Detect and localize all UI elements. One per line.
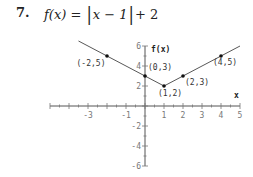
data-point <box>105 54 109 58</box>
y-tick-label: -4 <box>131 142 141 151</box>
y-tick-label: -6 <box>131 162 141 171</box>
x-tick-label: 5 <box>238 111 243 120</box>
point-labels: (-2,5)(0,3)(1,2)(2,3)(4,5) <box>77 58 238 98</box>
x-tick-label: 3 <box>200 111 205 120</box>
data-point <box>143 74 147 78</box>
data-point <box>162 84 166 88</box>
y-tick-label: -2 <box>131 122 141 131</box>
x-axis-label: x <box>234 91 239 100</box>
x-tick-label: 1 <box>162 111 167 120</box>
function-graph: -3-112345642-2-4-6 (-2,5)(0,3)(1,2)(2,3)… <box>0 0 253 177</box>
x-tick-label: 4 <box>219 111 224 120</box>
point-label: (4,5) <box>213 58 237 67</box>
y-tick-label: 6 <box>136 42 141 51</box>
point-label: (0,3) <box>148 63 172 72</box>
x-tick-label: -3 <box>83 111 93 120</box>
x-tick-label: 2 <box>181 111 186 120</box>
point-label: (2,3) <box>185 78 209 87</box>
y-axis-label: f(x) <box>151 45 170 54</box>
y-tick-label: 2 <box>136 82 141 91</box>
x-tick-label: -1 <box>121 111 131 120</box>
point-label: (1,2) <box>158 89 182 98</box>
point-label: (-2,5) <box>77 59 106 68</box>
y-tick-label: 4 <box>136 62 141 71</box>
